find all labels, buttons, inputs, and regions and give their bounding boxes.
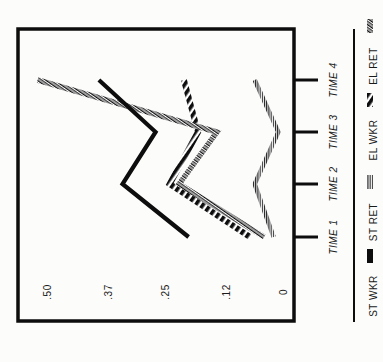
legend-label: ST WKR: [368, 275, 379, 317]
legend-swatch-icon: [367, 93, 373, 107]
time-tick-labels: TIME 1TIME 2TIME 3TIME 4: [328, 62, 339, 254]
value-tick-label: .12: [221, 284, 232, 299]
time-label: TIME 2: [328, 166, 339, 201]
value-tick-label: .25: [160, 284, 171, 299]
legend-swatch-icon: [367, 19, 373, 33]
time-label: TIME 1: [328, 219, 339, 254]
series-line-el-ret: [38, 80, 265, 237]
legend-label: EL WKR: [368, 120, 379, 161]
value-tick-label: .50: [42, 284, 53, 299]
time-label: TIME 3: [328, 114, 339, 149]
legend-item-el-ret: EL RET: [367, 19, 379, 85]
legend-swatch-icon: [367, 175, 373, 189]
value-axis-labels: 0.12.25.37.50: [42, 284, 289, 299]
legend-item-st-wkr: ST WKR: [367, 249, 379, 317]
legend: ST WKRST RETEL WKREL RET: [367, 19, 379, 317]
value-tick-label: 0: [278, 289, 289, 295]
time-label: TIME 4: [328, 62, 339, 97]
legend-label: EL RET: [368, 47, 379, 85]
legend-item-el-wkr: EL WKR: [367, 93, 379, 160]
plot-frame: [18, 29, 294, 321]
value-tick-label: .37: [103, 284, 114, 299]
chart-svg: TIME 1TIME 2TIME 3TIME 4 0.12.25.37.50 S…: [0, 0, 383, 362]
series-line-st-ret: [255, 80, 279, 237]
legend-item-st-ret: ST RET: [367, 175, 379, 241]
chart: TIME 1TIME 2TIME 3TIME 4 0.12.25.37.50 S…: [0, 0, 383, 362]
legend-swatch-icon: [367, 249, 373, 263]
legend-label: ST RET: [368, 203, 379, 241]
series-group: [38, 80, 279, 237]
series-line-el-wkr: [170, 80, 250, 237]
time-ticks: [294, 80, 318, 237]
